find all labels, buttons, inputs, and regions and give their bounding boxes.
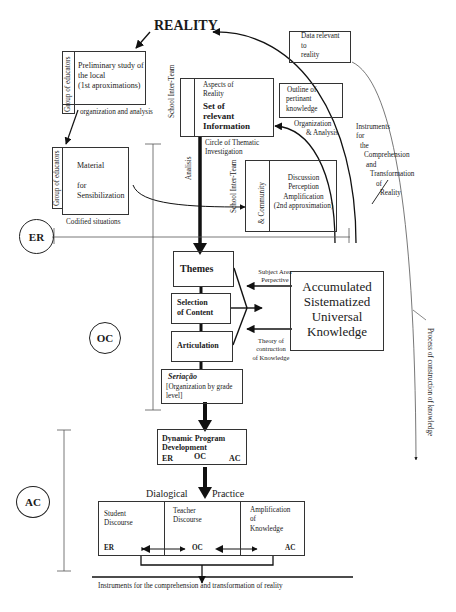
school-inter-team-label: School Inter-Team <box>168 65 176 118</box>
dialogical-label: Dialogical <box>146 489 188 500</box>
community-label: & Community <box>258 182 266 224</box>
reality-title: REALITY <box>154 19 218 34</box>
group-educators-label-1: Group of educators <box>64 57 72 113</box>
group-educators-label-2: Group of educators <box>53 151 61 207</box>
arrow-study-to-material <box>66 110 78 144</box>
bottom-caption: Instruments for the comprehension and tr… <box>98 583 283 591</box>
analysis-label: Analisis <box>185 156 193 180</box>
arrow-reality-to-study <box>136 32 150 48</box>
stage-oc-circle: OC <box>89 322 121 354</box>
process-construction-label: Process of construction of knowledge <box>426 328 434 436</box>
material-sensibilization-box <box>62 147 129 215</box>
stage-er-circle: ER <box>19 219 54 254</box>
codified-situations-label: Codified situations <box>66 219 121 227</box>
stage-ac-circle: AC <box>16 486 50 518</box>
school-inter-team-label-2: School Inter-Team <box>230 160 238 213</box>
organization-analysis-label: organization and analysis <box>80 109 153 117</box>
arrow-material-to-discussion <box>133 185 245 207</box>
practice-label: Practice <box>212 489 244 500</box>
arc-process-of-construction <box>352 62 416 460</box>
